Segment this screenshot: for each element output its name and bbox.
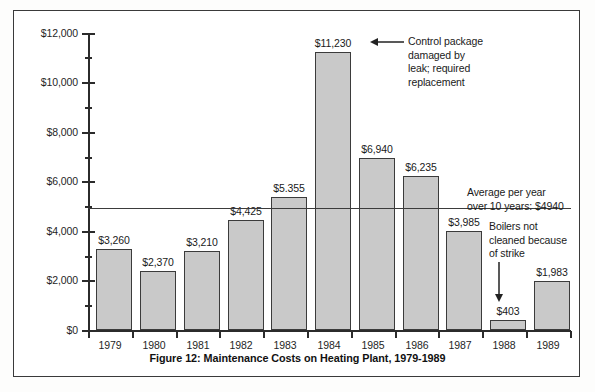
bar-1987[interactable]	[446, 231, 482, 330]
average-line-2: over 10 years: $4940	[467, 200, 587, 214]
x-tick-4	[263, 331, 265, 338]
bar-1982[interactable]	[228, 220, 264, 330]
bar-value-1982: $4,425	[216, 205, 276, 217]
control-package-line-3: leak; required	[408, 62, 538, 76]
average-line-1: Average per year	[467, 186, 587, 200]
bar-value-1987: $3,985	[434, 216, 494, 228]
bar-value-1989: $1,983	[522, 266, 582, 278]
bar-value-1985: $6,940	[347, 143, 407, 155]
x-axis-label-1988: 1988	[482, 339, 526, 351]
x-tick-6	[351, 331, 353, 338]
y-tick-minor-11000	[85, 57, 92, 59]
y-axis-label-0: $0	[12, 324, 78, 336]
x-tick-1	[132, 331, 134, 338]
bar-value-1986: $6,235	[391, 161, 451, 173]
x-axis-label-1981: 1981	[176, 339, 220, 351]
bar-1988[interactable]	[490, 320, 526, 330]
x-axis-label-1989: 1989	[526, 339, 570, 351]
y-tick-4000	[82, 231, 95, 233]
x-tick-9	[482, 331, 484, 338]
y-axis-label-2000: $2,000	[12, 274, 78, 286]
x-axis-label-1987: 1987	[438, 339, 482, 351]
y-tick-minor-7000	[85, 157, 92, 159]
x-tick-5	[307, 331, 309, 338]
bar-1983[interactable]	[271, 197, 307, 330]
x-axis-label-1979: 1979	[88, 339, 132, 351]
bar-value-1983: $5.355	[259, 182, 319, 194]
y-tick-2000	[82, 280, 95, 282]
control-package-line-1: Control package	[408, 35, 538, 49]
x-tick-8	[438, 331, 440, 338]
bar-value-1980: $2,370	[128, 256, 188, 268]
average-annotation: Average per year over 10 years: $4940	[467, 186, 587, 213]
x-tick-3	[219, 331, 221, 338]
bar-value-1984: $11,230	[299, 37, 367, 49]
y-tick-minor-3000	[85, 256, 92, 258]
y-axis-label-6000: $6,000	[12, 175, 78, 187]
x-tick-11	[570, 331, 572, 338]
y-axis-labels: $12,000 $10,000 $8,000 $6,000 $4,000 $2,…	[10, 0, 78, 392]
y-axis-label-10000: $10,000	[12, 76, 78, 88]
y-axis-label-12000: $12,000	[12, 27, 78, 39]
arrow-left-icon	[370, 34, 404, 50]
x-axis-label-1980: 1980	[132, 339, 176, 351]
figure-caption: Figure 12: Maintenance Costs on Heating …	[0, 352, 595, 364]
control-package-line-4: replacement	[408, 76, 538, 90]
bar-1980[interactable]	[140, 271, 176, 330]
y-tick-12000	[82, 33, 95, 35]
x-tick-0	[88, 331, 90, 338]
bar-1989[interactable]	[534, 281, 570, 330]
x-axis-label-1983: 1983	[263, 339, 307, 351]
x-tick-10	[526, 331, 528, 338]
bar-value-1981: $3,210	[172, 236, 232, 248]
y-axis-label-4000: $4,000	[12, 225, 78, 237]
figure-container: $12,000 $10,000 $8,000 $6,000 $4,000 $2,…	[0, 0, 595, 392]
y-tick-10000	[82, 82, 95, 84]
x-tick-2	[176, 331, 178, 338]
chart-plot-area: $12,000 $10,000 $8,000 $6,000 $4,000 $2,…	[0, 0, 595, 392]
bar-value-1979: $3,260	[84, 234, 144, 246]
strike-line-3: of strike	[489, 247, 589, 261]
y-tick-minor-1000	[85, 305, 92, 307]
arrow-down-icon	[491, 262, 507, 302]
bar-1979[interactable]	[96, 249, 132, 330]
bar-1985[interactable]	[359, 158, 395, 330]
x-axis-label-1982: 1982	[219, 339, 263, 351]
bar-value-1988: $403	[478, 305, 538, 317]
strike-line-1: Boilers not	[489, 220, 589, 234]
x-axis-label-1985: 1985	[351, 339, 395, 351]
x-axis-label-1984: 1984	[307, 339, 351, 351]
bar-1981[interactable]	[184, 251, 220, 330]
control-package-annotation: Control package damaged by leak; require…	[408, 35, 538, 89]
x-axis-label-1986: 1986	[395, 339, 439, 351]
strike-line-2: cleaned because	[489, 234, 589, 248]
x-tick-7	[395, 331, 397, 338]
bar-1984[interactable]	[315, 52, 351, 330]
y-axis-label-8000: $8,000	[12, 126, 78, 138]
y-tick-8000	[82, 132, 95, 134]
y-tick-minor-9000	[85, 107, 92, 109]
bar-1986[interactable]	[403, 176, 439, 330]
y-tick-6000	[82, 181, 95, 183]
x-axis-line	[88, 330, 571, 332]
control-package-line-2: damaged by	[408, 49, 538, 63]
strike-annotation: Boilers not cleaned because of strike	[489, 220, 589, 261]
